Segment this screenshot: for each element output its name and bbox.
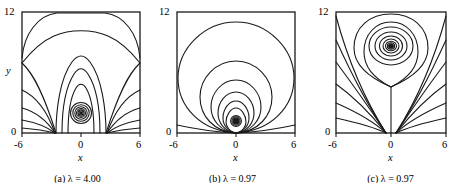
panel-b-ytick-bottom: 0	[166, 127, 171, 138]
panel-a-caption-wrap: (a) λ = 4.00	[0, 168, 155, 183]
panel-b-x-axis-label: x	[233, 153, 238, 164]
panel-c-x-axis-label: x	[388, 153, 393, 164]
figure-container: 12 0 y -6 0 6 x (a) λ = 4.00	[0, 0, 471, 183]
panel-c-contours	[336, 14, 446, 133]
panel-a-xtick-left: -6	[14, 140, 23, 151]
panel-c-ytick-top: 12	[318, 7, 329, 18]
panel-c-ytick-bottom: 0	[325, 127, 330, 138]
panel-b-centre-dot	[233, 118, 239, 124]
panel-c: 12 0 -6 0 6 x (c) λ = 0.97	[310, 0, 471, 183]
panel-a-contours	[22, 13, 140, 133]
panel-b-xtick-left: -6	[169, 140, 178, 151]
panel-c-xtick-mid: 0	[388, 140, 393, 151]
panel-a: 12 0 y -6 0 6 x (a) λ = 4.00	[0, 0, 155, 183]
panel-a-ytick-top: 12	[4, 7, 15, 18]
panel-a-caption: (a) λ = 4.00	[54, 173, 101, 183]
panel-b-xtick-mid: 0	[233, 140, 238, 151]
panel-b-contours	[177, 22, 295, 133]
panel-b-ytick-top: 12	[159, 7, 170, 18]
panel-b-caption-wrap: (b) λ = 0.97	[155, 168, 310, 183]
panel-c-centre-dot	[388, 43, 393, 48]
panel-b: 12 0 -6 0 6 x (b) λ = 0.97	[155, 0, 310, 183]
panel-a-x-axis-label: x	[78, 153, 83, 164]
panel-a-centre-dot	[80, 112, 83, 115]
panel-a-xtick-mid: 0	[78, 140, 83, 151]
panel-c-caption: (c) λ = 0.97	[367, 173, 414, 183]
panel-a-ytick-bottom: 0	[11, 127, 16, 138]
panel-b-caption: (b) λ = 0.97	[209, 173, 256, 183]
panel-b-xtick-right: 6	[291, 140, 296, 151]
panel-c-xtick-right: 6	[442, 140, 447, 151]
panel-c-xtick-left: -6	[328, 140, 337, 151]
panel-c-caption-wrap: (c) λ = 0.97	[310, 168, 471, 183]
panel-b-frame	[177, 12, 295, 133]
panel-a-xtick-right: 6	[136, 140, 141, 151]
panel-a-y-axis-label: y	[6, 66, 11, 77]
